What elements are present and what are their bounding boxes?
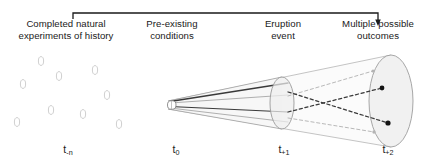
time-label-t-zero: t0 <box>154 143 198 155</box>
time-label-subscript: 0 <box>175 148 179 157</box>
time-label-subscript: +2 <box>385 148 393 157</box>
time-label-subscript: -n <box>66 148 72 157</box>
past-event-ellipse <box>92 66 97 75</box>
initial-conditions-tube <box>168 101 177 109</box>
outcome-endpoints <box>371 69 390 133</box>
possible-outcome-paths <box>288 71 388 132</box>
past-event-ellipse <box>116 120 121 129</box>
condition-path-mid-upper <box>170 95 288 103</box>
outcome-endpoint-c <box>385 120 390 125</box>
condition-path-lower <box>170 108 288 122</box>
pre-existing-condition-paths <box>170 83 288 122</box>
outcome-endpoint-a <box>371 69 374 72</box>
time-label-subscript: +1 <box>281 148 289 157</box>
header-eruption-event: Eruption event <box>244 18 322 41</box>
outcome-path-a <box>288 71 373 96</box>
possibility-cone <box>168 55 391 147</box>
time-label-t-minus-n: t-n <box>46 143 90 155</box>
condition-path-upper-dark <box>170 83 288 102</box>
past-event-ellipse <box>14 118 19 127</box>
past-event-ellipse <box>80 110 85 119</box>
header-multiple-possible-outcomes: Multiple possible outcomes <box>330 18 426 41</box>
eruption-event-ellipse <box>270 77 294 129</box>
outcome-path-d <box>288 118 374 132</box>
past-event-ellipse <box>104 91 109 100</box>
past-event-ellipse <box>20 80 25 89</box>
past-event-ellipse <box>38 57 43 66</box>
past-event-ellipse <box>48 106 53 115</box>
outcome-endpoint-d <box>372 130 375 133</box>
header-completed-natural-experiments: Completed natural experiments of history <box>2 18 130 41</box>
past-event-ellipse <box>56 72 61 81</box>
past-events-cluster <box>14 57 121 129</box>
eruption-scenario-diagram: Completed natural experiments of history… <box>0 0 427 168</box>
outcome-path-b <box>288 88 382 112</box>
outcomes-ellipse <box>369 55 413 147</box>
outcome-path-c <box>288 92 388 123</box>
time-label-t-plus-2: t+2 <box>366 143 410 155</box>
eruption-cone-inner <box>168 77 282 129</box>
header-pre-existing-conditions: Pre-existing conditions <box>131 18 213 41</box>
outcome-endpoint-b <box>380 86 385 91</box>
time-label-t-plus-1: t+1 <box>262 143 306 155</box>
condition-path-mid-lower <box>170 107 288 113</box>
